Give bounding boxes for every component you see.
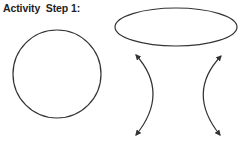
circle-shape	[13, 30, 101, 118]
hyperbola-right-branch	[203, 56, 221, 135]
hyperbola-left-branch	[136, 55, 153, 135]
ellipse-shape	[115, 8, 237, 46]
conic-sections-diagram	[0, 0, 239, 144]
